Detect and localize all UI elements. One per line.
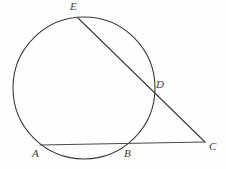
- point-label-b: B: [124, 148, 131, 159]
- point-label-a: A: [32, 148, 39, 159]
- secant-line-ec: [78, 18, 205, 142]
- geometry-figure: E D C A B: [0, 0, 226, 169]
- main-circle: [13, 17, 155, 159]
- geometry-canvas: [0, 0, 226, 169]
- secant-line-ac: [40, 142, 205, 145]
- point-label-e: E: [70, 1, 77, 12]
- point-label-d: D: [156, 79, 164, 90]
- point-label-c: C: [209, 141, 216, 152]
